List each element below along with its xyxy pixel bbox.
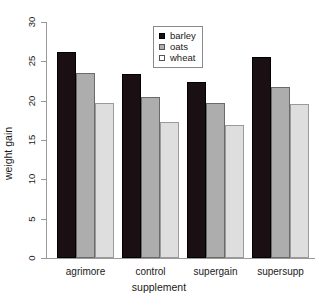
- y-tick-label-text: 10: [27, 174, 37, 185]
- y-tick-label-text: 20: [27, 95, 37, 106]
- y-tick-mark: [41, 140, 46, 141]
- chart-legend: barley oats wheat: [153, 26, 203, 68]
- y-axis-title-text: weight gain: [4, 127, 15, 180]
- y-tick-label-text: 25: [27, 56, 37, 67]
- y-tick-mark: [41, 258, 46, 259]
- legend-swatch-oats-icon: [159, 44, 165, 50]
- y-axis-line: [46, 22, 47, 259]
- legend-label-wheat: wheat: [170, 53, 195, 63]
- legend-swatch-wheat-icon: [159, 55, 165, 61]
- legend-swatch-barley-icon: [159, 33, 165, 39]
- bar-supersupp-wheat[interactable]: [290, 104, 309, 258]
- bar-supergain-wheat[interactable]: [225, 125, 244, 258]
- x-axis-label-supersupp: supersupp: [241, 266, 319, 277]
- bar-agrimore-barley[interactable]: [57, 52, 76, 258]
- bar-supergain-barley[interactable]: [187, 82, 206, 258]
- y-tick-mark: [41, 219, 46, 220]
- legend-item-oats[interactable]: oats: [159, 42, 196, 52]
- bar-agrimore-wheat[interactable]: [95, 103, 114, 258]
- y-tick-label-text: 0: [27, 255, 37, 260]
- y-tick-mark: [41, 61, 46, 62]
- y-axis-title: weight gain: [0, 0, 18, 307]
- y-tick-label-text: 5: [27, 216, 37, 221]
- bar-control-wheat[interactable]: [160, 122, 179, 258]
- legend-item-barley[interactable]: barley: [159, 31, 196, 41]
- x-axis-title: supplement: [0, 282, 318, 293]
- y-tick-mark: [41, 22, 46, 23]
- legend-item-wheat[interactable]: wheat: [159, 53, 196, 63]
- bar-supergain-oats[interactable]: [206, 103, 225, 258]
- y-tick-label-text: 15: [27, 135, 37, 146]
- legend-label-oats: oats: [170, 42, 188, 52]
- bar-supersupp-barley[interactable]: [252, 57, 271, 258]
- legend-label-barley: barley: [170, 31, 196, 41]
- bar-control-oats[interactable]: [141, 97, 160, 258]
- bar-chart: weight gain 051015202530 agrimorecontrol…: [0, 0, 318, 307]
- bar-supersupp-oats[interactable]: [271, 87, 290, 258]
- bar-control-barley[interactable]: [122, 74, 141, 258]
- y-tick-label-text: 30: [27, 17, 37, 28]
- y-tick-mark: [41, 101, 46, 102]
- bar-agrimore-oats[interactable]: [76, 73, 95, 258]
- x-axis-line: [47, 258, 315, 259]
- y-tick-mark: [41, 179, 46, 180]
